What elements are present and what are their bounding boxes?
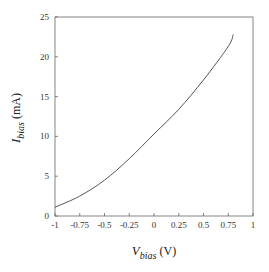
y-tick-label: 5	[45, 171, 50, 181]
y-axis-label: Ibias (mA)	[8, 93, 26, 144]
x-axis-label: Vbias (V)	[132, 243, 176, 261]
x-tick-label: 0.25	[171, 220, 187, 230]
x-axis-ticks: -1-0.75-0.5-0.2500.250.50.751	[51, 213, 255, 230]
plot-frame	[55, 17, 253, 216]
x-tick-label: -0.25	[120, 220, 139, 230]
x-tick-label: 0.5	[198, 220, 210, 230]
x-tick-label: 0.75	[220, 220, 236, 230]
y-tick-label: 15	[40, 92, 50, 102]
y-tick-label: 0	[45, 211, 50, 221]
y-tick-label: 25	[40, 12, 50, 22]
y-tick-label: 10	[40, 131, 50, 141]
x-tick-label: 1	[251, 220, 256, 230]
series-line	[55, 35, 233, 208]
data-series	[55, 35, 233, 208]
x-tick-label: 0	[152, 220, 157, 230]
iv-chart: -1-0.75-0.5-0.2500.250.50.751 0510152025…	[0, 0, 269, 272]
x-tick-label: -0.75	[70, 220, 89, 230]
y-tick-label: 20	[40, 52, 50, 62]
x-tick-label: -1	[51, 220, 59, 230]
plot-border	[55, 17, 253, 216]
x-tick-label: -0.5	[97, 220, 112, 230]
